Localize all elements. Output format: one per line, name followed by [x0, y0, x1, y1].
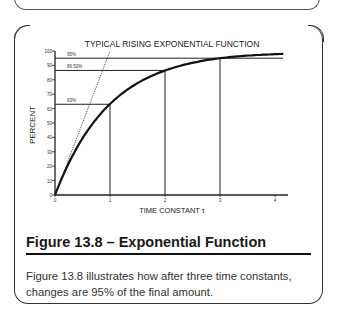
x-axis-label: TIME CONSTANT τ: [139, 206, 205, 215]
y-tick-label: 70: [47, 92, 53, 97]
figure-caption-text: Figure 13.8 illustrates how after three …: [26, 268, 316, 300]
y-tick-label: 100: [44, 49, 52, 54]
x-tick-label: 2: [164, 198, 167, 203]
y-tick-label: 20: [47, 164, 53, 169]
annotation-label: 63%: [67, 98, 76, 103]
x-tick-label: 4: [274, 198, 277, 203]
x-tick-label: 1: [109, 198, 112, 203]
x-tick-label: 3: [219, 198, 222, 203]
y-tick-label: 60: [47, 107, 53, 112]
y-tick-label: 40: [47, 135, 53, 140]
exponential-chart: TYPICAL RISING EXPONENTIAL FUNCTION 0102…: [0, 0, 342, 232]
y-tick-label: 80: [47, 78, 53, 83]
caption-divider: [26, 253, 311, 255]
chart-title: TYPICAL RISING EXPONENTIAL FUNCTION: [85, 39, 260, 49]
x-tick-label: 0: [54, 198, 57, 203]
annotation-label: 95%: [67, 52, 76, 57]
y-tick-label: 10: [47, 179, 53, 184]
y-tick-label: 50: [47, 121, 53, 126]
exponential-curve: [55, 54, 283, 195]
plot-area: 01020304050607080901000123463%86.50%95%: [44, 49, 288, 203]
y-tick-label: 90: [47, 63, 53, 68]
y-tick-label: 30: [47, 150, 53, 155]
y-axis-label: PERCENT: [28, 106, 37, 144]
y-tick-label: 0: [49, 193, 52, 198]
annotation-label: 86.50%: [67, 64, 82, 69]
figure-caption-title: Figure 13.8 – Exponential Function: [26, 234, 266, 250]
